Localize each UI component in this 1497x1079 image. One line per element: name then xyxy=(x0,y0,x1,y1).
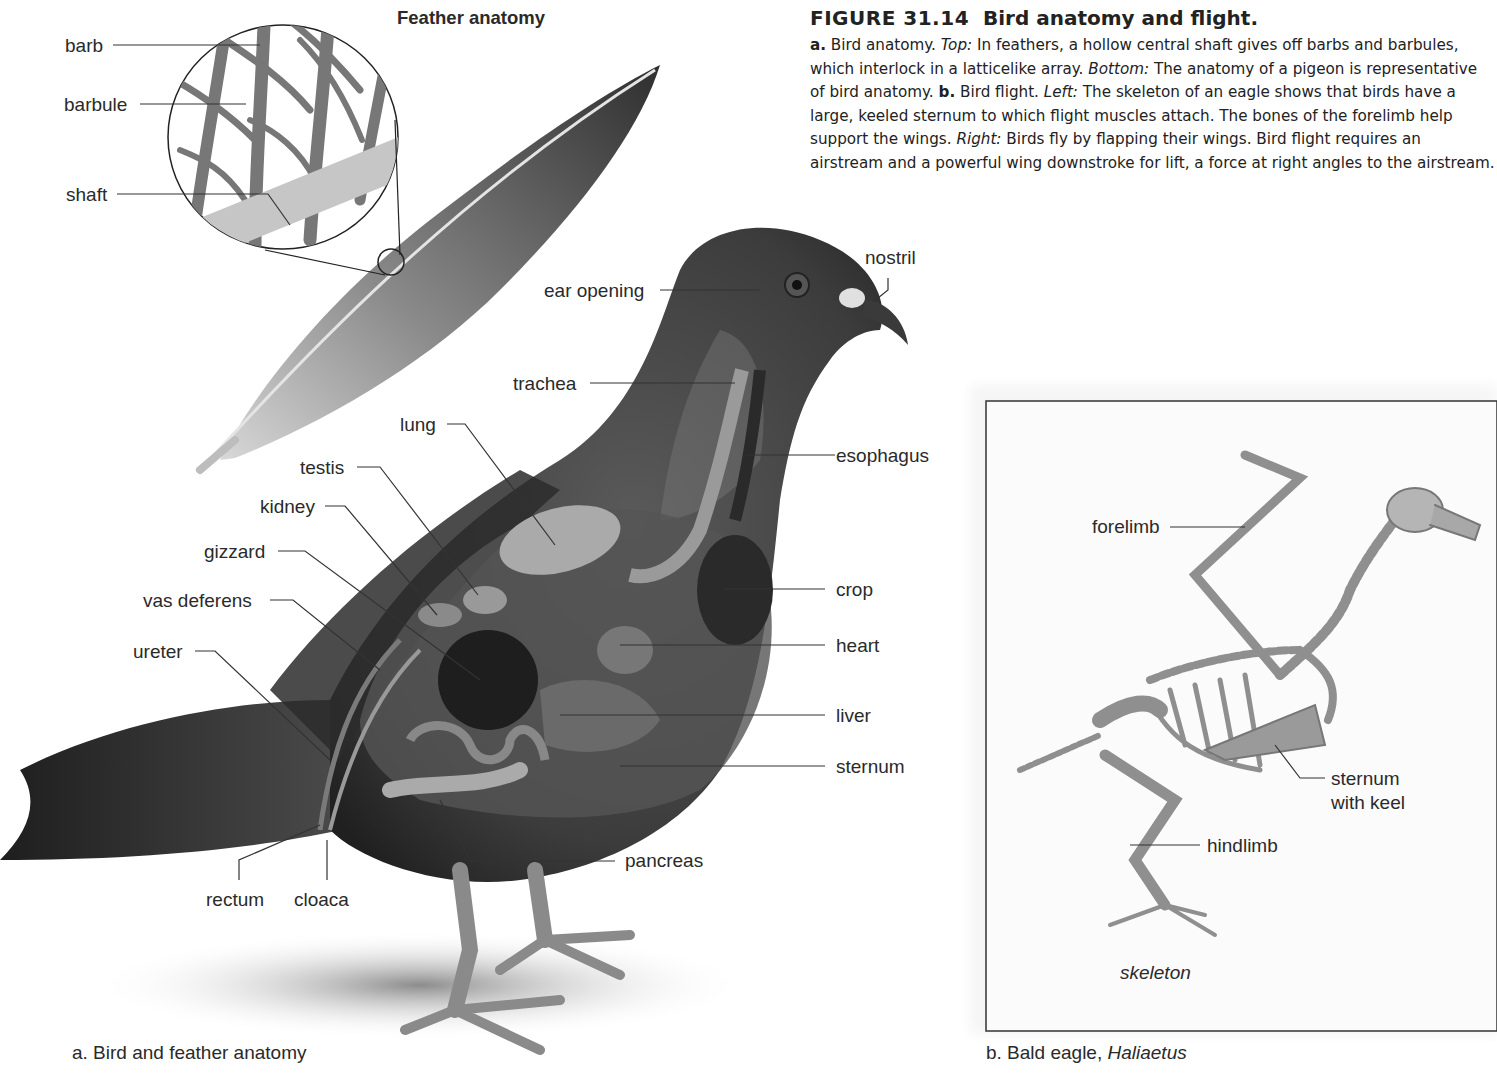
label-skeleton: skeleton xyxy=(1120,963,1191,982)
label-ear-opening: ear opening xyxy=(544,281,644,300)
caption-run: Top: xyxy=(941,36,972,54)
label-ureter: ureter xyxy=(133,642,183,661)
caption-run: b. xyxy=(939,83,956,101)
caption-run: Left: xyxy=(1044,83,1078,101)
figure-title-text: Bird anatomy and flight. xyxy=(983,6,1258,30)
label-kidney: kidney xyxy=(260,497,315,516)
label-lung: lung xyxy=(400,415,436,434)
feather-anatomy-title: Feather anatomy xyxy=(397,9,545,28)
label-trachea: trachea xyxy=(513,374,576,393)
figure-number: FIGURE 31.14 xyxy=(810,6,969,30)
label-nostril: nostril xyxy=(865,248,916,267)
label-pancreas: pancreas xyxy=(625,851,703,870)
label-testis: testis xyxy=(300,458,344,477)
caption-run: Right: xyxy=(956,130,1001,148)
caption-run: Bird anatomy. xyxy=(826,36,941,54)
label-liver: liver xyxy=(836,706,871,725)
subcaption-a: a. Bird and feather anatomy xyxy=(72,1042,306,1064)
subcaption-b: b. Bald eagle, Haliaetus xyxy=(986,1042,1187,1064)
label-shaft: shaft xyxy=(66,185,107,204)
label-heart: heart xyxy=(836,636,879,655)
figure-caption: a. Bird anatomy. Top: In feathers, a hol… xyxy=(810,34,1496,176)
label-sternum-line2: with keel xyxy=(1331,792,1405,813)
label-sternum: sternum xyxy=(836,757,905,776)
figure-title: FIGURE 31.14 Bird anatomy and flight. xyxy=(810,6,1258,30)
subcaption-b-prefix: b. Bald eagle, xyxy=(986,1042,1107,1063)
caption-run: Bird flight. xyxy=(955,83,1044,101)
caption-run: Bottom: xyxy=(1088,60,1149,78)
label-esophagus: esophagus xyxy=(836,446,929,465)
label-gizzard: gizzard xyxy=(204,542,265,561)
label-crop: crop xyxy=(836,580,873,599)
label-sternum-line1: sternum xyxy=(1331,768,1400,789)
label-barbule: barbule xyxy=(64,95,127,114)
feather-magnified-circle xyxy=(150,0,420,275)
subcaption-b-genus: Haliaetus xyxy=(1107,1042,1186,1063)
label-hindlimb: hindlimb xyxy=(1207,836,1278,855)
label-vas-deferens: vas deferens xyxy=(143,591,252,610)
label-rectum: rectum xyxy=(206,890,264,909)
label-barb: barb xyxy=(65,36,103,55)
label-sternum-with-keel: sternum with keel xyxy=(1331,767,1405,815)
label-forelimb: forelimb xyxy=(1092,517,1160,536)
pigeon-illustration xyxy=(0,228,908,1050)
caption-run: a. xyxy=(810,36,826,54)
label-cloaca: cloaca xyxy=(294,890,349,909)
